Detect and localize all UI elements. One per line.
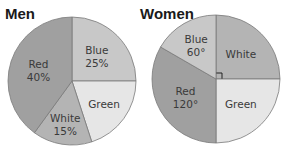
men-label-green: Green [88,98,120,110]
men-label-white: White15% [50,112,81,137]
men-chart-title: Men [5,5,35,22]
women-pie: WhiteGreenRed120°Blue60° [152,15,280,143]
women-label-red: Red120° [173,85,198,110]
men-label-blue: Blue25% [85,44,108,69]
pie-charts: Men Women Blue25%GreenWhite15%Red40% Whi… [0,0,281,154]
women-label-blue: Blue60° [185,33,208,58]
men-label-red: Red40% [27,58,50,83]
women-chart-title: Women [140,5,194,22]
women-slice-green [216,79,280,143]
men-pie: Blue25%GreenWhite15%Red40% [8,17,136,145]
women-slice-white [216,15,280,79]
women-label-white: White [226,48,257,60]
women-label-green: Green [225,98,257,110]
